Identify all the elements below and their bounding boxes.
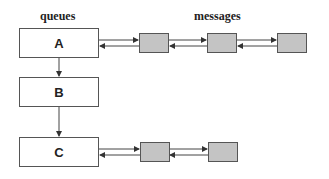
message-a-1 [139, 33, 169, 53]
queue-b: B [19, 77, 99, 107]
queue-c-label: C [54, 145, 63, 160]
queue-a-label: A [54, 36, 63, 51]
message-a-2 [207, 33, 237, 53]
queue-c: C [19, 137, 99, 167]
queue-b-label: B [54, 85, 63, 100]
message-a-3 [277, 33, 307, 53]
message-c-2 [208, 142, 238, 162]
queue-a: A [19, 28, 99, 58]
message-c-1 [140, 142, 170, 162]
